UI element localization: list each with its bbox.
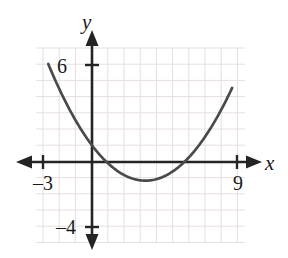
grid-lines: [36, 48, 245, 243]
x-axis-left-arrow-icon: [16, 156, 32, 169]
x-tick-label-neg3: –3: [32, 172, 53, 194]
y-tick-label-neg4: –4: [55, 216, 76, 238]
graph-figure: y x 6 –4 –3 9: [0, 0, 288, 258]
coordinate-plane: y x 6 –4 –3 9: [0, 0, 288, 258]
y-axis-label: y: [80, 10, 92, 34]
x-axis-label: x: [264, 151, 275, 175]
x-tick-label-9: 9: [233, 172, 243, 194]
axes: [16, 30, 262, 250]
y-tick-label-6: 6: [57, 55, 67, 77]
x-axis-right-arrow-icon: [246, 156, 262, 169]
